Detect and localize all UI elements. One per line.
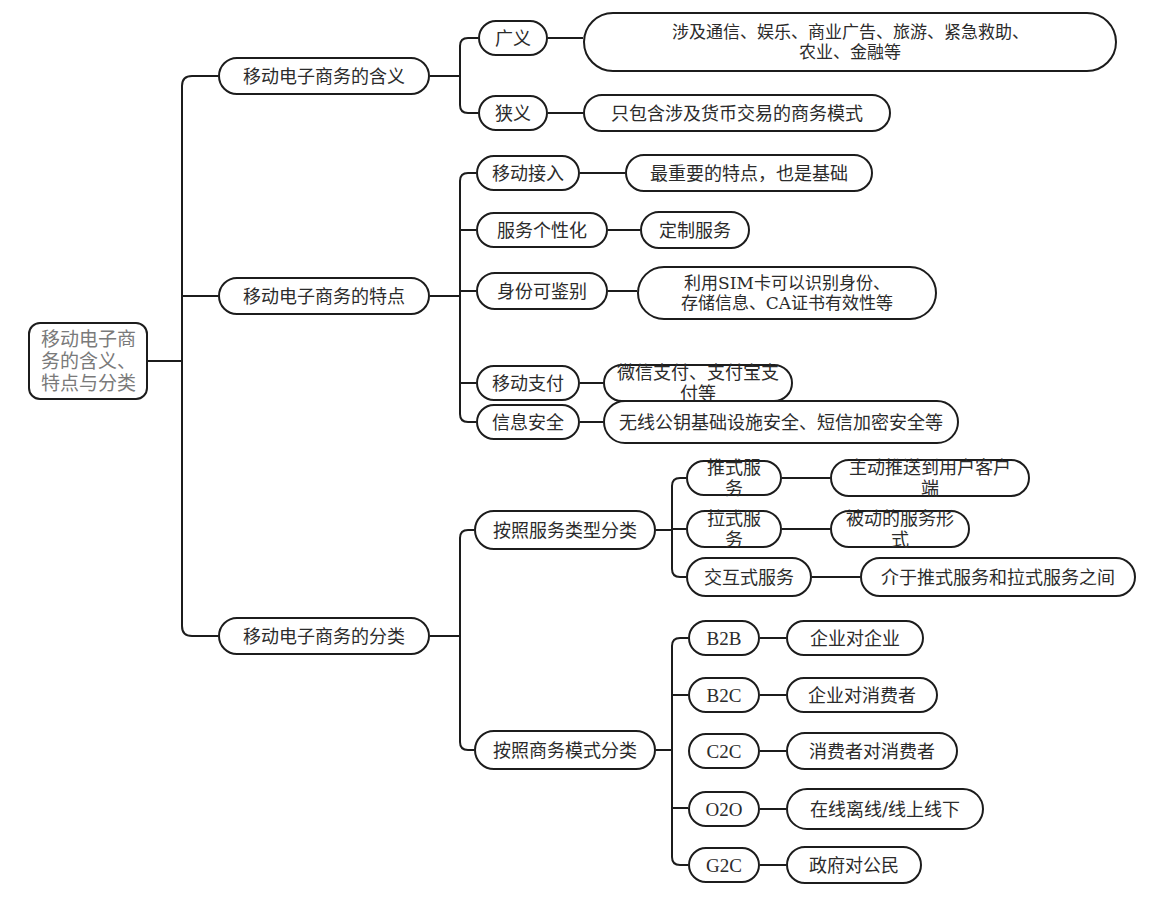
detail-g2c: 政府对公民 bbox=[786, 846, 922, 884]
node-by-business-model: 按照商务模式分类 bbox=[474, 730, 656, 770]
branch-definition: 移动电子商务的含义 bbox=[218, 57, 430, 95]
branch-classification: 移动电子商务的分类 bbox=[218, 617, 430, 655]
node-mobile-access: 移动接入 bbox=[476, 155, 580, 191]
node-o2o: O2O bbox=[688, 791, 760, 827]
node-personalization: 服务个性化 bbox=[476, 212, 608, 248]
detail-c2c: 消费者对消费者 bbox=[786, 732, 958, 770]
root-node: 移动电子商 务的含义、 特点与分类 bbox=[28, 322, 148, 400]
node-pull-service: 拉式服务 bbox=[686, 510, 782, 548]
detail-mobile-access: 最重要的特点，也是基础 bbox=[625, 154, 873, 192]
detail-push-service: 主动推送到用户客户端 bbox=[830, 459, 1030, 497]
detail-info-security: 无线公钥基础设施安全、短信加密安全等 bbox=[603, 400, 959, 444]
detail-b2b: 企业对企业 bbox=[786, 620, 924, 656]
branch-features: 移动电子商务的特点 bbox=[218, 277, 430, 315]
node-interactive-service: 交互式服务 bbox=[686, 557, 812, 597]
node-mobile-payment: 移动支付 bbox=[476, 365, 580, 401]
node-narrow-sense: 狭义 bbox=[478, 95, 548, 131]
node-identity: 身份可鉴别 bbox=[476, 272, 608, 310]
detail-identity: 利用SIM卡可以识别身份、 存储信息、CA证书有效性等 bbox=[637, 266, 937, 320]
node-b2c: B2C bbox=[688, 677, 760, 713]
node-g2c: G2C bbox=[688, 847, 760, 883]
detail-personalization: 定制服务 bbox=[640, 211, 750, 249]
detail-narrow-sense: 只包含涉及货币交易的商务模式 bbox=[583, 94, 891, 132]
node-b2b: B2B bbox=[688, 620, 760, 656]
node-c2c: C2C bbox=[688, 733, 760, 769]
detail-o2o: 在线离线/线上线下 bbox=[786, 788, 984, 830]
node-by-service-type: 按照服务类型分类 bbox=[474, 510, 656, 550]
detail-b2c: 企业对消费者 bbox=[786, 677, 938, 713]
detail-pull-service: 被动的服务形式 bbox=[830, 510, 970, 548]
node-broad-sense: 广义 bbox=[478, 20, 548, 56]
node-info-security: 信息安全 bbox=[476, 404, 580, 440]
node-push-service: 推式服务 bbox=[686, 460, 782, 496]
detail-mobile-payment: 微信支付、支付宝支付等 bbox=[603, 364, 793, 402]
detail-broad-sense: 涉及通信、娱乐、商业广告、旅游、紧急救助、 农业、金融等 bbox=[583, 12, 1117, 72]
detail-interactive-service: 介于推式服务和拉式服务之间 bbox=[860, 557, 1136, 597]
